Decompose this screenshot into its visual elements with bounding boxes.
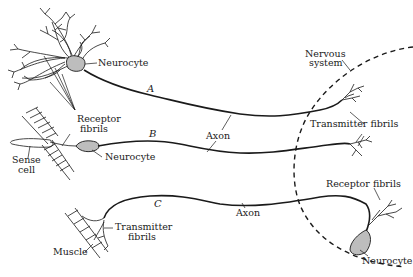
muscle-label: Muscle — [53, 246, 88, 257]
neuron-c-transmitter-fibrils — [82, 216, 108, 250]
receptor-fibrils-b-label-line2: fibrils — [80, 123, 108, 134]
neurocyte-a-label: Neurocyte — [98, 57, 149, 68]
pathway-a-label: A — [146, 83, 154, 94]
neuron-a-transmitter-fibrils — [342, 84, 364, 102]
neurocyte-a-leader — [85, 63, 97, 64]
nervous-system-label-line2: system — [309, 57, 343, 68]
transmitter-fibrils-c-label-line2: fibrils — [128, 231, 156, 242]
neuron-c-cellbody — [350, 230, 371, 255]
axon-ab-leader-top — [222, 115, 231, 130]
neurocyte-b-label: Neurocyte — [105, 151, 156, 162]
neuron-b-cellbody — [76, 141, 99, 152]
receptor-fibrils-c-label: Receptor fibrils — [326, 178, 401, 189]
neuron-diagram: Neurocyte A Nervous system — [0, 0, 413, 277]
neurocyte-c-label: Neurocyte — [362, 255, 413, 266]
receptor-fibrils-c-leader — [374, 188, 380, 200]
neurocyte-b-leader — [92, 150, 102, 157]
neuron-a-dendrites — [8, 8, 110, 90]
transmitter-fibrils-ab-label: Transmitter fibrils — [310, 118, 398, 129]
nervous-system-boundary — [294, 47, 413, 267]
pathway-b-label: B — [148, 128, 156, 139]
sense-cell-label-line2: cell — [18, 164, 35, 175]
receptor-fibrils-b-leader — [62, 134, 70, 146]
neuron-a-cellbody — [67, 56, 86, 72]
nervous-system-leader — [342, 60, 350, 70]
neuron-b-transmitter-fibrils — [350, 136, 372, 156]
pathway-c-label: C — [154, 198, 162, 209]
axon-a — [84, 70, 342, 116]
axon-c-label: Axon — [235, 207, 260, 218]
neuron-c-receptor-fibrils — [368, 200, 402, 226]
axon-ab-label: Axon — [205, 130, 230, 141]
